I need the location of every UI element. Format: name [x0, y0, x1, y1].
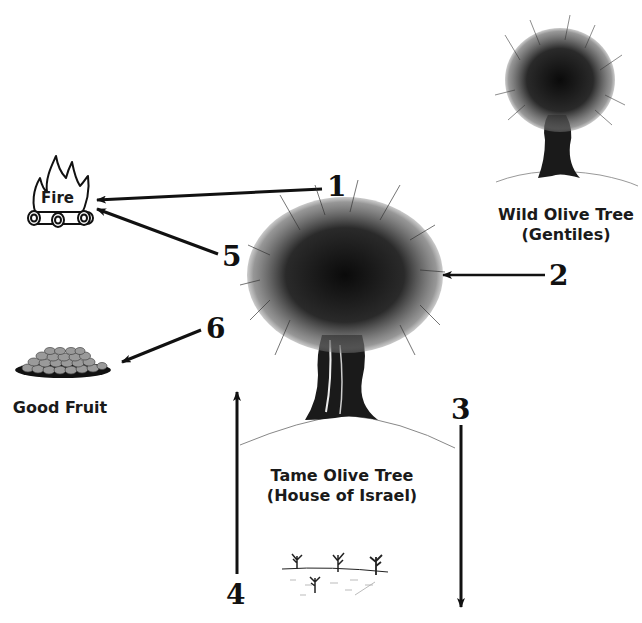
fire-label: Fire	[41, 189, 74, 207]
step-label-3: 3	[451, 396, 470, 424]
wild-olive-tree-subtitle: (Gentiles)	[490, 225, 642, 245]
wild-olive-tree-title: Wild Olive Tree	[490, 205, 642, 225]
good-fruit-label: Good Fruit	[0, 398, 120, 418]
saplings-icon	[282, 553, 388, 595]
tame-olive-tree-icon	[240, 180, 455, 448]
tame-olive-tree-subtitle: (House of Israel)	[262, 486, 422, 506]
arrow-5	[97, 209, 218, 254]
diagram-canvas	[0, 0, 642, 623]
arrow-1	[97, 189, 322, 200]
step-label-6: 6	[206, 315, 225, 343]
step-label-2: 2	[549, 262, 568, 290]
tame-olive-tree-title: Tame Olive Tree	[262, 466, 422, 486]
step-label-4: 4	[226, 581, 245, 609]
step-label-5: 5	[222, 243, 241, 271]
fruit-bowl-icon	[15, 348, 111, 379]
tame-olive-tree-caption: Tame Olive Tree (House of Israel)	[262, 466, 422, 506]
step-label-1: 1	[327, 173, 346, 201]
arrow-6	[122, 330, 201, 362]
wild-olive-tree-caption: Wild Olive Tree (Gentiles)	[490, 205, 642, 245]
wild-olive-tree-icon	[495, 15, 638, 186]
